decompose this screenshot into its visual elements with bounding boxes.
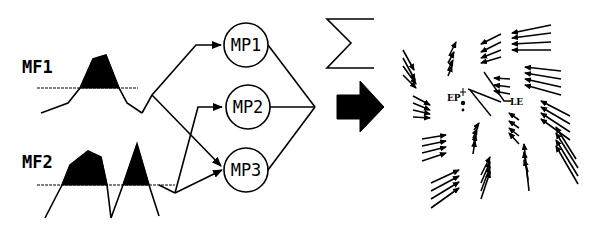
mf2-filled-region-2	[123, 144, 149, 185]
le-label: LE	[510, 97, 523, 107]
mp1-output-line	[268, 45, 315, 107]
mf2-stub-line	[159, 185, 175, 193]
mf2-to-mp3-arrow	[175, 170, 222, 193]
mf1-to-mp3-arrow	[152, 95, 221, 166]
mf2-to-mp2-arrow	[175, 107, 222, 193]
mp3-label: MP3	[231, 160, 262, 180]
ep-marker: EP	[447, 88, 466, 111]
fuzzy-motor-primitive-diagram: MF1 MF2 MP1 MP2 MP3	[0, 0, 596, 229]
right-arrow-icon	[337, 81, 384, 132]
motor-primitive-mp1: MP1	[224, 23, 268, 67]
membership-function-mf1: MF1	[22, 55, 142, 113]
vector-cluster	[481, 34, 501, 63]
output-convergence	[268, 45, 315, 170]
vector-cluster	[422, 135, 446, 161]
mp3-output-line	[268, 107, 315, 170]
vector-cluster	[403, 50, 416, 88]
mf2-connections	[159, 107, 222, 193]
mf2-label: MF2	[22, 152, 53, 172]
vector-cluster	[512, 25, 551, 50]
vector-cluster	[524, 144, 529, 191]
membership-function-mf2: MF2	[22, 144, 175, 218]
mf1-to-mp1-arrow	[142, 45, 221, 113]
motor-primitive-mp3: MP3	[224, 148, 268, 192]
mp2-label: MP2	[233, 97, 264, 117]
vector-cluster	[473, 123, 479, 154]
ep-label: EP	[447, 93, 461, 103]
mp1-label: MP1	[231, 35, 262, 55]
vector-cluster	[481, 157, 490, 199]
vector-cluster	[494, 78, 510, 94]
force-field-plot: EP LE	[403, 25, 578, 208]
vector-cluster	[413, 96, 430, 118]
vector-cluster	[556, 127, 578, 184]
summation-sigma-icon	[327, 19, 374, 68]
vector-cluster	[525, 67, 561, 95]
vector-cluster	[448, 42, 456, 76]
vector-cluster	[431, 170, 459, 208]
vector-cluster	[509, 113, 519, 144]
mf1-label: MF1	[22, 57, 53, 77]
vector-cluster	[541, 101, 570, 140]
mf1-connections	[142, 45, 221, 166]
motor-primitive-mp2: MP2	[226, 85, 270, 129]
